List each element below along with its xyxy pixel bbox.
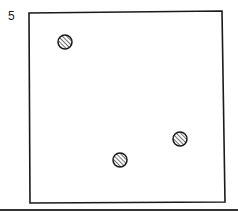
hatched-dot-3 [173, 132, 187, 146]
scatter-panel [0, 0, 238, 213]
hatched-dot-1 [58, 35, 72, 49]
hatched-dot-2 [113, 153, 127, 167]
